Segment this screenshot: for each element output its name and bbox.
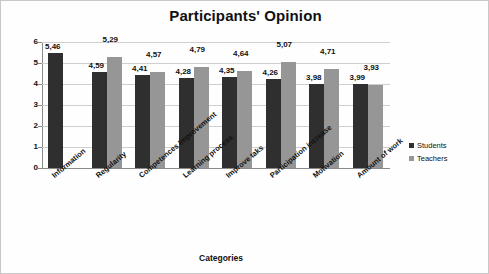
legend-label: Teachers bbox=[417, 154, 447, 163]
y-axis-tick-label: 6 bbox=[20, 37, 38, 46]
bar-value-label: 4,71 bbox=[320, 47, 336, 56]
bar-value-label: 4,41 bbox=[132, 64, 148, 73]
chart-title: Participants' Opinion bbox=[1, 7, 489, 24]
bar-value-label: 4,35 bbox=[219, 66, 235, 75]
bar-students bbox=[266, 79, 281, 168]
legend-swatch bbox=[409, 156, 414, 161]
bar-value-label: 3,99 bbox=[350, 73, 366, 82]
bar-students bbox=[222, 77, 237, 168]
y-axis-tick bbox=[38, 147, 42, 148]
bar-value-label: 4,59 bbox=[89, 61, 105, 70]
legend-item: Students bbox=[409, 141, 447, 150]
legend-swatch bbox=[409, 143, 414, 148]
x-axis-title: Categories bbox=[1, 253, 441, 263]
bar-group: 4,414,57 bbox=[135, 42, 165, 168]
bar-value-label: 5,46 bbox=[45, 42, 61, 51]
y-axis-tick bbox=[38, 63, 42, 64]
x-axis-line bbox=[42, 168, 390, 169]
bar-group: 4,284,79 bbox=[179, 42, 209, 168]
bar-students bbox=[135, 75, 150, 168]
bar-value-label: 5,07 bbox=[277, 40, 293, 49]
y-axis-tick bbox=[38, 105, 42, 106]
bar-group: 3,984,71 bbox=[309, 42, 339, 168]
bar-group: 3,993,93 bbox=[353, 42, 383, 168]
bar-value-label: 4,79 bbox=[190, 45, 206, 54]
bar-value-label: 4,26 bbox=[263, 68, 279, 77]
chart-container: Participants' Opinion Mean 0123456 5,464… bbox=[0, 0, 489, 274]
y-axis-tick-label: 2 bbox=[20, 121, 38, 130]
y-axis-tick bbox=[38, 84, 42, 85]
bar-value-label: 4,64 bbox=[233, 49, 249, 58]
y-axis-tick-label: 4 bbox=[20, 79, 38, 88]
bar-students bbox=[48, 53, 63, 168]
y-axis-tick-labels: 0123456 bbox=[18, 42, 38, 168]
bar-value-label: 3,98 bbox=[306, 73, 322, 82]
bar-students bbox=[92, 72, 107, 168]
legend-item: Teachers bbox=[409, 154, 447, 163]
y-axis-tick-label: 3 bbox=[20, 100, 38, 109]
y-axis-tick bbox=[38, 126, 42, 127]
legend-label: Students bbox=[417, 141, 447, 150]
bar-group: 4,595,29 bbox=[92, 42, 122, 168]
chart-legend: StudentsTeachers bbox=[409, 141, 447, 167]
bar-value-label: 5,29 bbox=[103, 35, 119, 44]
bar-value-label: 4,28 bbox=[176, 67, 192, 76]
bar-students bbox=[353, 84, 368, 168]
y-axis-tick bbox=[38, 42, 42, 43]
bar-group: 5,46 bbox=[48, 42, 78, 168]
bar-students bbox=[179, 78, 194, 168]
y-axis-tick-label: 5 bbox=[20, 58, 38, 67]
bar-group: 4,354,64 bbox=[222, 42, 252, 168]
bar-group: 4,265,07 bbox=[266, 42, 296, 168]
y-axis-tick-label: 1 bbox=[20, 142, 38, 151]
y-axis-tick bbox=[38, 168, 42, 169]
y-axis-tick-label: 0 bbox=[20, 163, 38, 172]
bar-value-label: 3,93 bbox=[364, 63, 380, 72]
bar-value-label: 4,57 bbox=[146, 50, 162, 59]
